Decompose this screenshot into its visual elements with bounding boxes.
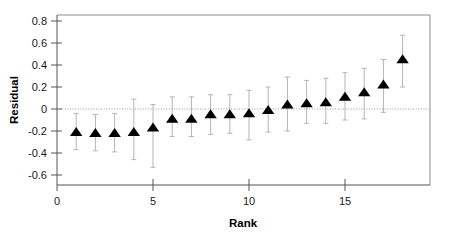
y-tick-label: 0.4	[32, 59, 47, 71]
y-axis-title: Residual	[8, 76, 20, 124]
residual-vs-rank-scatter-plot: 0.8 0.6 0.4 0.2 0 -0.2 -0.4 -0.6 Residua…	[0, 0, 450, 238]
chart-figure: 0.8 0.6 0.4 0.2 0 -0.2 -0.4 -0.6 Residua…	[0, 0, 450, 238]
y-tick-label: 0.8	[32, 15, 47, 27]
x-tick-label: 0	[54, 195, 60, 207]
y-tick-label: 0	[41, 103, 47, 115]
y-tick-label: 0.2	[32, 81, 47, 93]
y-tick-label: -0.4	[28, 147, 47, 159]
y-tick-label: 0.6	[32, 37, 47, 49]
chart-background	[0, 0, 450, 238]
x-tick-label: 15	[339, 195, 351, 207]
x-axis-title: Rank	[229, 217, 258, 229]
y-tick-label: -0.6	[28, 169, 47, 181]
x-tick-label: 5	[150, 195, 156, 207]
x-tick-label: 10	[243, 195, 255, 207]
y-tick-label: -0.2	[28, 125, 47, 137]
